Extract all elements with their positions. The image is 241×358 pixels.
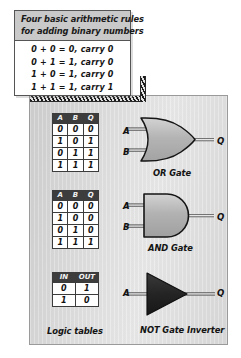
or-gate-caption: OR Gate xyxy=(153,168,191,178)
column-header-out: OUT xyxy=(75,273,98,283)
rule-row-3: 1 + 0 = 1, carry 0 xyxy=(15,69,130,82)
table-row: 0 1 0 xyxy=(53,225,99,237)
column-header-in: IN xyxy=(53,273,76,283)
not-gate-symbol xyxy=(119,268,224,320)
or-gate-input-label-a: A xyxy=(123,126,130,136)
panel-hatch-strip-side xyxy=(140,76,146,102)
cell-b: 1 xyxy=(68,160,83,172)
cell-a: 0 xyxy=(53,225,68,237)
column-header-a: A xyxy=(53,191,68,201)
column-header-b: B xyxy=(68,191,83,201)
table-header-row: A B Q xyxy=(53,191,99,201)
cell-in: 1 xyxy=(53,295,76,307)
cell-q: 1 xyxy=(83,160,98,172)
and-gate-input-label-a: A xyxy=(123,201,130,211)
table-row: 0 0 0 xyxy=(53,124,99,136)
or-gate-output-label-q: Q xyxy=(217,136,224,146)
not-gate-input-label-a: A xyxy=(123,288,130,298)
arithmetic-rules-header: Four basic arithmetic rules for adding b… xyxy=(15,11,130,41)
cell-a: 1 xyxy=(53,136,68,148)
cell-q: 1 xyxy=(83,136,98,148)
cell-b: 0 xyxy=(68,136,83,148)
and-gate-symbol xyxy=(119,186,224,242)
table-row: 0 0 0 xyxy=(53,201,99,213)
cell-a: 1 xyxy=(53,213,68,225)
table-row: 1 0 0 xyxy=(53,213,99,225)
column-header-a: A xyxy=(53,114,68,124)
cell-a: 0 xyxy=(53,148,68,160)
cell-a: 1 xyxy=(53,160,68,172)
and-gate-output-label-q: Q xyxy=(217,212,224,222)
table-row: 1 0 1 xyxy=(53,136,99,148)
arithmetic-rules-list: 0 + 0 = 0, carry 0 0 + 1 = 1, carry 0 1 … xyxy=(15,41,130,95)
cell-b: 1 xyxy=(68,225,83,237)
table-header-row: A B Q xyxy=(53,114,99,124)
table-row: 1 1 1 xyxy=(53,237,99,249)
not-gate-output-label-q: Q xyxy=(217,288,224,298)
panel-hatch-strip-top xyxy=(30,96,146,102)
cell-b: 0 xyxy=(68,124,83,136)
figure-page: Four basic arithmetic rules for adding b… xyxy=(0,0,241,358)
cell-b: 0 xyxy=(68,201,83,213)
cell-q: 0 xyxy=(83,225,98,237)
cell-a: 0 xyxy=(53,124,68,136)
table-row: 1 0 xyxy=(53,295,99,307)
rule-row-1: 0 + 0 = 0, carry 0 xyxy=(15,44,130,57)
cell-a: 0 xyxy=(53,201,68,213)
cell-b: 1 xyxy=(68,237,83,249)
truth-table-and: A B Q 0 0 0 1 0 0 0 1 0 1 1 1 xyxy=(52,190,99,249)
not-gate-body xyxy=(147,273,187,315)
cell-q: 0 xyxy=(83,124,98,136)
cell-a: 1 xyxy=(53,237,68,249)
or-gate-body xyxy=(141,118,195,161)
truth-table-not: IN OUT 0 1 1 0 xyxy=(52,272,99,307)
cell-q: 1 xyxy=(83,148,98,160)
or-gate-input-label-b: B xyxy=(123,147,130,157)
cell-in: 0 xyxy=(53,283,76,295)
table-row: 0 1 xyxy=(53,283,99,295)
and-gate-input-label-b: B xyxy=(123,222,130,232)
logic-tables-caption: Logic tables xyxy=(47,326,103,336)
rules-title-line-2: for adding binary numbers xyxy=(21,26,125,38)
cell-q: 0 xyxy=(83,201,98,213)
table-header-row: IN OUT xyxy=(53,273,99,283)
rule-row-4: 1 + 1 = 1, carry 1 xyxy=(15,82,130,95)
cell-out: 1 xyxy=(75,283,98,295)
cell-b: 1 xyxy=(68,148,83,160)
cell-b: 0 xyxy=(68,213,83,225)
truth-table-or: A B Q 0 0 0 1 0 1 0 1 1 1 1 1 xyxy=(52,113,99,172)
column-header-q: Q xyxy=(83,114,98,124)
rule-row-2: 0 + 1 = 1, carry 0 xyxy=(15,57,130,70)
column-header-q: Q xyxy=(83,191,98,201)
or-gate-symbol xyxy=(119,110,224,166)
cell-q: 0 xyxy=(83,213,98,225)
and-output-wire-q xyxy=(187,214,214,217)
and-gate-caption: AND Gate xyxy=(148,243,193,253)
rules-title-line-1: Four basic arithmetic rules xyxy=(21,14,125,26)
and-gate-body xyxy=(144,194,189,237)
table-row: 1 1 1 xyxy=(53,160,99,172)
not-gate-caption: NOT Gate Inverter xyxy=(140,325,224,335)
cell-q: 1 xyxy=(83,237,98,249)
column-header-b: B xyxy=(68,114,83,124)
not-output-wire-q xyxy=(183,292,215,295)
table-row: 0 1 1 xyxy=(53,148,99,160)
arithmetic-rules-box: Four basic arithmetic rules for adding b… xyxy=(14,10,131,96)
cell-out: 0 xyxy=(75,295,98,307)
